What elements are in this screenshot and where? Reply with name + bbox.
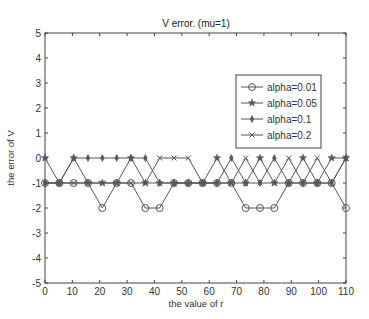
legend: alpha=0.01alpha=0.05alpha=0.1alpha=0.2: [236, 75, 321, 148]
y-tick-label: 2: [35, 103, 41, 114]
series-group: [41, 154, 349, 211]
y-tick-label: -3: [32, 228, 41, 239]
legend-label: alpha=0.1: [267, 114, 312, 125]
chart-title: V error. (mu=1): [162, 18, 230, 29]
y-tick-label: -1: [32, 178, 41, 189]
legend-label: alpha=0.01: [267, 82, 317, 93]
y-tick-label: 3: [35, 78, 41, 89]
line-chart: V error. (mu=1) 010203040506070809010011…: [0, 0, 369, 319]
legend-label: alpha=0.2: [267, 130, 312, 141]
x-tick-label: 100: [310, 286, 327, 297]
x-tick-label: 80: [258, 286, 270, 297]
x-tick-label: 0: [42, 286, 48, 297]
x-axis-label: the value of r: [169, 298, 224, 309]
y-tick-label: -5: [32, 278, 41, 289]
x-tick-label: 30: [122, 286, 134, 297]
y-tick-label: 0: [35, 153, 41, 164]
y-tick-label: 4: [35, 53, 41, 64]
y-axis-label: the error of V: [5, 130, 16, 186]
x-tick-label: 90: [286, 286, 298, 297]
y-tick-label: 1: [35, 128, 41, 139]
legend-label: alpha=0.05: [267, 98, 317, 109]
x-tick-label: 10: [67, 286, 79, 297]
x-tick-label: 110: [338, 286, 354, 297]
y-tick-label: -4: [32, 253, 41, 264]
x-tick-label: 40: [149, 286, 161, 297]
y-tick-label: 5: [35, 28, 41, 39]
x-tick-label: 70: [231, 286, 243, 297]
x-tick-label: 20: [94, 286, 106, 297]
x-tick-label: 60: [204, 286, 216, 297]
x-tick-label: 50: [176, 286, 188, 297]
y-tick-label: -2: [32, 203, 41, 214]
